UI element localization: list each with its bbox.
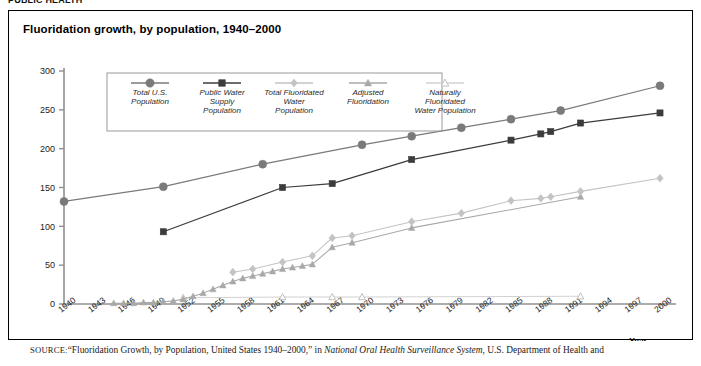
data-point: [538, 131, 544, 137]
data-point: [160, 229, 166, 235]
legend-entry-2: Total FluoridatedWaterPopulation: [264, 79, 324, 115]
x-tick-label-8: 1964: [295, 295, 316, 315]
data-point: [657, 110, 663, 116]
legend-label-3-1: Fluoridation: [347, 97, 389, 106]
y-tick-label-4: 200: [40, 144, 55, 154]
data-point: [577, 187, 583, 195]
series-total-fluoridated-water-population: [230, 174, 664, 276]
data-point: [577, 120, 583, 126]
x-tick-label-12: 1976: [414, 295, 435, 315]
legend-entry-1: Public WaterSupplyPopulation: [199, 80, 245, 116]
data-point: [508, 137, 514, 143]
y-tick-label-2: 100: [40, 222, 55, 232]
legend-entry-4: NaturallyFluoridatedWater Population: [414, 79, 476, 115]
data-point: [279, 184, 285, 190]
legend-entry-0: Total U.S.Population: [131, 79, 169, 106]
data-point: [349, 232, 355, 240]
legend-label-3-0: Adjusted: [351, 88, 384, 97]
line-chart: 0501001502002503001940194319461949195219…: [9, 11, 694, 341]
legend-label-0-0: Total U.S.: [133, 88, 168, 97]
legend-label-1-1: Supply: [210, 97, 235, 106]
x-tick-label-0: 1940: [56, 295, 77, 315]
data-point: [409, 156, 415, 162]
legend-label-4-2: Water Population: [414, 106, 476, 115]
data-point: [508, 197, 514, 205]
y-tick-label-0: 0: [50, 299, 55, 309]
legend-marker: [291, 79, 297, 87]
x-tick-label-18: 1994: [593, 295, 614, 315]
y-tick-label-6: 300: [40, 66, 55, 76]
legend-marker: [219, 80, 225, 86]
source-note: SOURCE:“Fluoridation Growth, by Populati…: [8, 342, 693, 364]
series-public-water-supply-population: [160, 110, 663, 235]
data-point: [230, 268, 236, 276]
data-point: [329, 181, 335, 187]
data-point: [457, 124, 465, 132]
data-point: [656, 82, 664, 90]
chart-area: 0501001502002503001940194319461949195219…: [9, 11, 694, 341]
legend-label-2-0: Total Fluoridated: [264, 88, 324, 97]
data-point: [60, 197, 68, 205]
data-point: [657, 174, 663, 182]
x-tick-label-9: 1967: [324, 295, 345, 315]
data-point: [358, 141, 366, 149]
x-tick-label-20: 2000: [652, 295, 673, 315]
x-tick-label-11: 1973: [384, 295, 405, 315]
data-point: [329, 234, 335, 242]
data-point: [408, 218, 414, 226]
x-tick-label-16: 1988: [533, 295, 554, 315]
x-tick-label-1: 1943: [86, 295, 107, 315]
series-line: [183, 296, 580, 298]
figure-frame: Fluoridation growth, by population, 1940…: [8, 10, 693, 340]
cut-off-header: PUBLIC HEALTH: [8, 0, 128, 9]
y-tick-label-5: 250: [40, 105, 55, 115]
y-tick-label-1: 50: [45, 260, 55, 270]
data-point: [279, 258, 285, 266]
legend-label-4-1: Fluoridated: [425, 97, 466, 106]
x-tick-label-14: 1982: [473, 295, 494, 315]
chart-legend: Total U.S.PopulationPublic WaterSupplyPo…: [107, 73, 476, 131]
data-point: [557, 107, 565, 115]
source-part2: , U.S. Department of Health and: [483, 345, 604, 355]
x-tick-label-15: 1985: [503, 295, 524, 315]
legend-entry-3: AdjustedFluoridation: [347, 79, 389, 106]
series-line: [114, 197, 581, 303]
series-line: [233, 178, 660, 272]
data-point: [548, 193, 554, 201]
source-part1: “Fluoridation Growth, by Population, Uni…: [68, 345, 325, 355]
legend-label-2-2: Population: [275, 106, 313, 115]
legend-label-1-0: Public Water: [199, 88, 245, 97]
source-label: SOURCE:: [30, 345, 68, 355]
legend-label-1-2: Population: [203, 106, 241, 115]
data-point: [548, 129, 554, 135]
cut-off-header-text: PUBLIC HEALTH: [8, 0, 128, 5]
data-point: [259, 160, 267, 168]
data-point: [250, 265, 256, 273]
series-adjusted-fluoridation: [111, 194, 584, 306]
y-tick-label-3: 150: [40, 183, 55, 193]
legend-label-4-0: Naturally: [429, 88, 462, 97]
x-tick-label-10: 1970: [354, 295, 375, 315]
x-axis-title: Year: [629, 336, 647, 341]
data-point: [408, 132, 416, 140]
series-naturally-fluoridated-water-population: [180, 293, 584, 301]
x-tick-label-13: 1979: [444, 295, 465, 315]
legend-marker: [146, 79, 154, 87]
data-point: [538, 194, 544, 202]
data-point: [458, 209, 464, 217]
source-italic-title: National Oral Health Surveillance System: [324, 345, 482, 355]
legend-label-0-1: Population: [131, 97, 169, 106]
legend-label-2-1: Water: [283, 97, 305, 106]
x-tick-label-19: 1997: [622, 295, 643, 315]
x-tick-label-6: 1958: [235, 295, 256, 315]
data-point: [159, 183, 167, 191]
data-point: [507, 115, 515, 123]
